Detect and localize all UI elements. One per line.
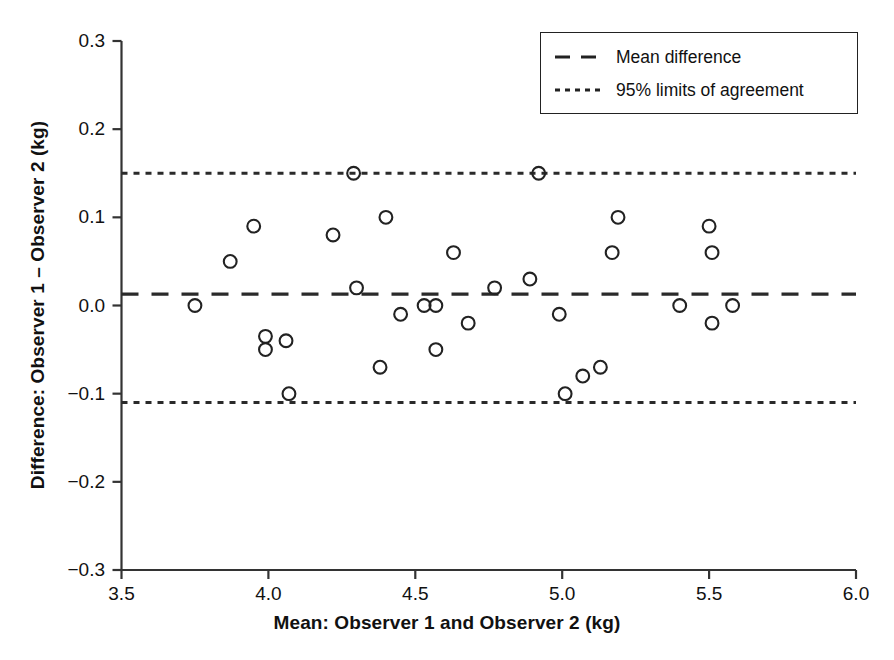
data-point-marker	[280, 334, 293, 347]
data-point-marker	[594, 361, 607, 374]
data-point-marker	[247, 220, 260, 233]
data-point-marker	[559, 387, 572, 400]
x-tick-label: 6.0	[843, 583, 869, 605]
data-point-marker	[283, 387, 296, 400]
y-tick-label: 0.1	[40, 206, 105, 228]
data-point-marker	[374, 361, 387, 374]
legend: Mean difference 95% limits of agreement	[540, 32, 858, 114]
x-axis-title: Mean: Observer 1 and Observer 2 (kg)	[0, 612, 894, 634]
y-tick-label: 0.0	[40, 295, 105, 317]
legend-swatch-dashed	[554, 50, 606, 64]
data-point-marker	[447, 246, 460, 259]
y-axis-title: Difference: Observer 1 – Observer 2 (kg)	[27, 25, 49, 585]
data-point-marker	[488, 281, 501, 294]
data-point-marker	[189, 299, 202, 312]
data-point-marker	[350, 281, 363, 294]
data-point-marker	[553, 308, 566, 321]
x-tick-label: 4.5	[402, 583, 428, 605]
data-point-marker	[706, 246, 719, 259]
bland-altman-plot: 0.30.20.10.0−0.1−0.2−0.3 3.54.04.55.05.5…	[0, 0, 894, 660]
x-tick-label: 3.5	[108, 583, 134, 605]
legend-label-limits-of-agreement: 95% limits of agreement	[616, 80, 804, 101]
data-point-marker	[327, 229, 340, 242]
plot-frame	[122, 41, 857, 570]
data-point-marker	[429, 343, 442, 356]
legend-swatch-dotted	[554, 83, 606, 97]
x-tick-label: 5.5	[696, 583, 722, 605]
data-point-marker	[224, 255, 237, 268]
x-tick-label: 5.0	[549, 583, 575, 605]
data-point-marker	[673, 299, 686, 312]
legend-item-limits-of-agreement: 95% limits of agreement	[554, 76, 804, 104]
y-tick-label: −0.2	[40, 471, 105, 493]
data-point-marker	[394, 308, 407, 321]
data-point-marker	[612, 211, 625, 224]
data-point-marker	[726, 299, 739, 312]
data-point-marker	[703, 220, 716, 233]
data-point-marker	[706, 317, 719, 330]
data-point-marker	[259, 330, 272, 343]
y-tick-label: −0.3	[40, 559, 105, 581]
data-point-marker	[380, 211, 393, 224]
data-point-marker	[462, 317, 475, 330]
data-point-marker	[259, 343, 272, 356]
data-point-marker	[576, 370, 589, 383]
legend-label-mean-difference: Mean difference	[616, 47, 741, 68]
y-tick-label: 0.2	[40, 118, 105, 140]
y-tick-label: 0.3	[40, 30, 105, 52]
y-tick-label: −0.1	[40, 383, 105, 405]
data-points	[189, 167, 739, 400]
data-point-marker	[606, 246, 619, 259]
legend-item-mean-difference: Mean difference	[554, 43, 741, 71]
x-tick-label: 4.0	[255, 583, 281, 605]
axis-ticks	[113, 41, 857, 579]
data-point-marker	[523, 273, 536, 286]
